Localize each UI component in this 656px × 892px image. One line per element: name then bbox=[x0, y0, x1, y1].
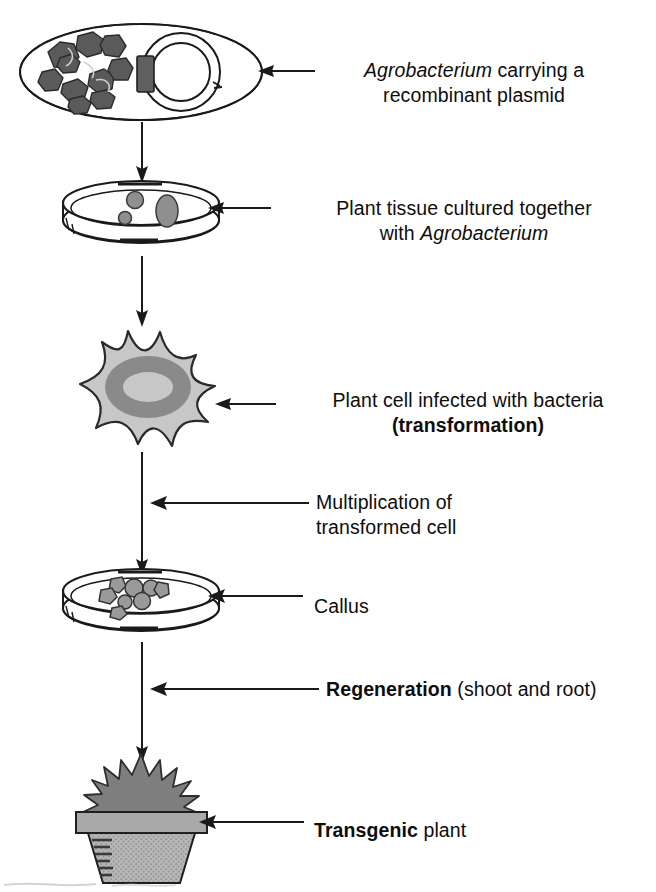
callout-arrow-transgenic-plant bbox=[199, 808, 305, 836]
label-line: with Agrobacterium bbox=[274, 221, 654, 246]
label-line: Plant tissue cultured together bbox=[274, 196, 654, 221]
callout-arrow-regeneration bbox=[150, 675, 320, 703]
label-line: (transformation) bbox=[280, 413, 656, 438]
flow-arrow-4 bbox=[131, 642, 153, 764]
pot-rim bbox=[76, 812, 207, 833]
flow-arrow-1 bbox=[131, 122, 153, 184]
callout-arrow-infected-cell bbox=[215, 390, 277, 418]
label-line: Multiplication of bbox=[316, 490, 636, 515]
transformation-flow-diagram: Agrobacterium carrying arecombinant plas… bbox=[0, 0, 656, 892]
callout-arrow-multiplication bbox=[150, 489, 310, 517]
label-line: recombinant plasmid bbox=[314, 83, 634, 108]
callout-arrow-coculture bbox=[208, 194, 272, 222]
label-line: Plant cell infected with bacteria bbox=[280, 388, 656, 413]
label-infected-cell: Plant cell infected with bacteria(transf… bbox=[280, 388, 656, 438]
label-transgenic-plant: Transgenic plant bbox=[314, 818, 634, 843]
label-agrobacterium: Agrobacterium carrying arecombinant plas… bbox=[314, 58, 634, 108]
callout-arrow-callus bbox=[208, 582, 304, 610]
label-line: Callus bbox=[314, 594, 574, 619]
label-line: Agrobacterium carrying a bbox=[314, 58, 634, 83]
label-line: Regeneration (shoot and root) bbox=[326, 677, 656, 702]
label-multiplication: Multiplication oftransformed cell bbox=[316, 490, 636, 540]
label-line: transformed cell bbox=[316, 515, 636, 540]
label-line: Transgenic plant bbox=[314, 818, 634, 843]
label-regeneration: Regeneration (shoot and root) bbox=[326, 677, 656, 702]
cell-nucleus-ring-icon bbox=[105, 356, 191, 418]
callout-arrow-agrobacterium bbox=[258, 57, 316, 85]
page-edge-artifact bbox=[0, 876, 656, 892]
label-coculture: Plant tissue cultured togetherwith Agrob… bbox=[274, 196, 654, 246]
insert-gene-icon bbox=[137, 56, 154, 92]
label-callus: Callus bbox=[314, 594, 574, 619]
